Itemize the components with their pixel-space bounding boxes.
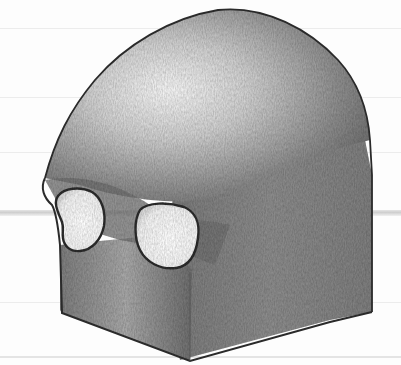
- left-eye-socket: [56, 189, 105, 252]
- skull-drawing: [0, 0, 401, 365]
- paper-background: [0, 0, 401, 365]
- right-eye-socket: [136, 204, 199, 269]
